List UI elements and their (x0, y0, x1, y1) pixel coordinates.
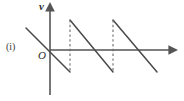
axes-group (50, 10, 170, 95)
waveform-group (26, 20, 157, 72)
ramp-segment-2 (113, 20, 157, 72)
ramp-segment-1 (70, 20, 113, 72)
sawtooth-waveform-figure: (i) v O (0, 0, 184, 101)
figure-item-label: (i) (6, 42, 15, 52)
y-axis-label: v (39, 1, 44, 12)
origin-label: O (38, 50, 46, 61)
waveform-plot-canvas (0, 0, 184, 101)
